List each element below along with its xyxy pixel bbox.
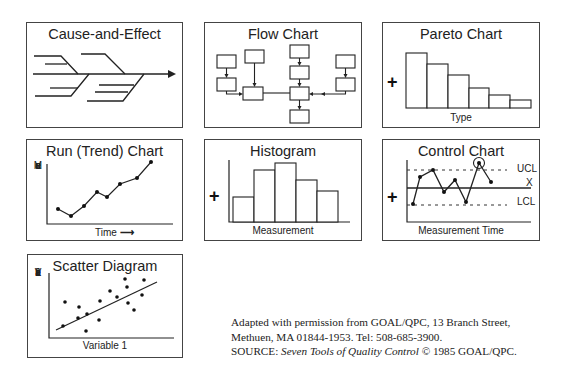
- run-chart-panel: Run (Trend) Chart M e a s u r e Time ⟶: [26, 139, 183, 241]
- center-line-label: X: [526, 177, 533, 188]
- lcl-label: LCL: [517, 196, 535, 207]
- ucl-label: UCL: [517, 163, 537, 174]
- credit-line-1: Adapted with permission from GOAL/QPC, 1…: [231, 315, 517, 330]
- source-book-title: Seven Tools of Quality Control: [281, 345, 419, 357]
- run-chart-xlabel: Time ⟶: [95, 227, 134, 238]
- histogram-panel: Histogram + Measurement: [204, 139, 362, 241]
- flow-chart-panel: Flow Chart: [204, 22, 362, 128]
- credit-line-3: SOURCE: Seven Tools of Quality Control ©…: [231, 344, 517, 359]
- credit-line-2: Methuen, MA 01844-1953. Tel: 508-685-390…: [231, 330, 517, 345]
- control-chart-xlabel: Measurement Time: [383, 225, 539, 236]
- credit-text: Adapted with permission from GOAL/QPC, 1…: [231, 315, 517, 359]
- cause-effect-panel: Cause-and-Effect: [26, 22, 183, 128]
- arrow-head-icon: [168, 70, 176, 78]
- flow-chart-diagram: [205, 23, 363, 129]
- histogram-xlabel: Measurement: [205, 225, 361, 236]
- control-chart-panel: Control Chart + UCL X LCL Measurement Ti…: [382, 139, 540, 241]
- scatter-panel: Scatter Diagram V a r i a b l e 2 Variab…: [27, 254, 183, 358]
- scatter-xlabel: Variable 1: [28, 340, 182, 351]
- arrow-right-icon: ⟶: [120, 227, 134, 238]
- pareto-panel: Pareto Chart + Type: [382, 22, 540, 128]
- fishbone-diagram: [27, 23, 184, 129]
- pareto-xlabel: Type: [383, 112, 539, 123]
